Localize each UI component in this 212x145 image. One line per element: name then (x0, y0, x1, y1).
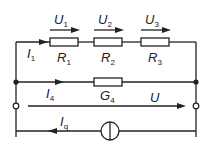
label-r3: R3 (148, 50, 162, 67)
u2-arrowhead-icon (115, 27, 124, 33)
label-u2: U2 (98, 12, 112, 29)
u3-arrowhead-icon (162, 27, 171, 33)
label-r1: R1 (57, 50, 71, 67)
label-u1: U1 (54, 12, 68, 29)
iq-arrowhead-icon (48, 128, 57, 134)
conductance-g4 (94, 78, 122, 86)
resistor-r1 (50, 38, 78, 46)
u1-arrowhead-icon (71, 27, 80, 33)
label-iq: Iq (60, 114, 68, 131)
junction-left (13, 79, 18, 84)
i1-arrowhead-icon (39, 39, 48, 45)
label-i4: I4 (46, 86, 55, 103)
junction-right (193, 79, 198, 84)
label-u: U (150, 90, 160, 105)
resistor-r2 (94, 38, 122, 46)
terminal-right (193, 103, 199, 109)
terminal-left (13, 103, 19, 109)
u-arrowhead-icon (177, 103, 186, 109)
circuit-svg: U1 U2 U3 R1 R2 R3 I1 I4 G4 U Iq (0, 0, 212, 145)
label-i1: I1 (27, 46, 36, 63)
resistor-r3 (141, 38, 169, 46)
label-g4: G4 (100, 88, 115, 105)
i4-arrowhead-icon (55, 79, 64, 85)
label-r2: R2 (101, 50, 115, 67)
label-u3: U3 (145, 12, 159, 29)
circuit-diagram: U1 U2 U3 R1 R2 R3 I1 I4 G4 U Iq (0, 0, 212, 145)
